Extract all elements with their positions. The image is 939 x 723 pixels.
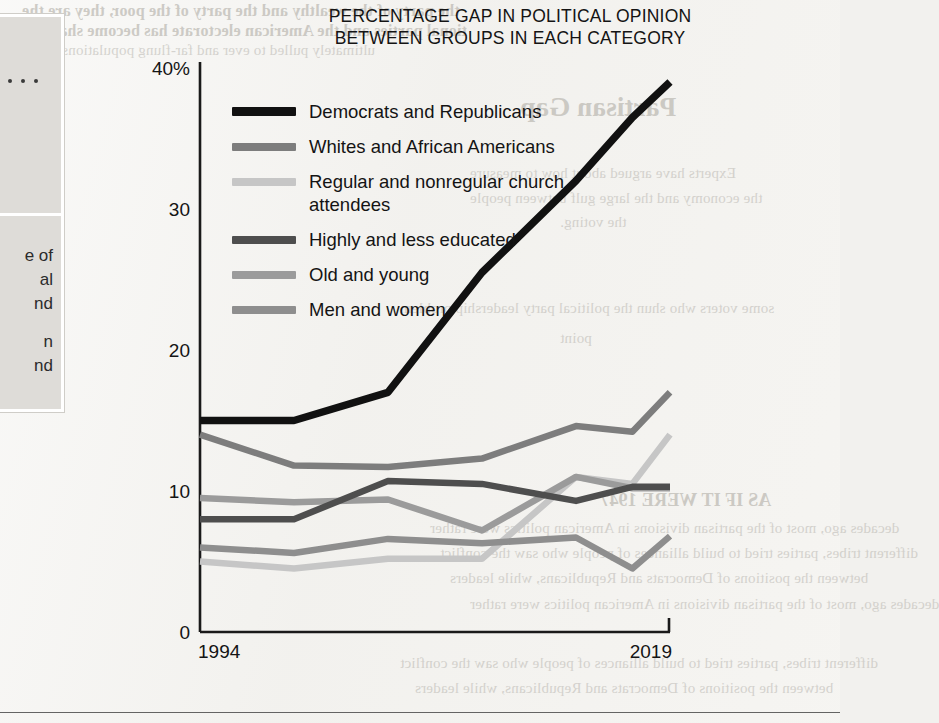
legend-swatch [232, 143, 296, 151]
series-line [200, 392, 670, 467]
y-tick-label: 10 [169, 481, 190, 502]
x-tick-label: 2019 [630, 641, 672, 662]
legend-swatch [232, 236, 296, 244]
legend-label: Old and young [309, 263, 429, 286]
y-tick-label: 40% [152, 58, 190, 79]
y-tick-label: 20 [169, 340, 190, 361]
legend-label: Men and women [309, 298, 446, 321]
y-tick-label: 30 [169, 199, 190, 220]
legend-label: Highly and less educated [309, 228, 516, 251]
legend-item: Old and young [232, 263, 572, 286]
legend-swatch [232, 306, 296, 314]
legend-swatch [232, 107, 296, 116]
y-tick-label: 0 [179, 622, 190, 643]
legend-label: Democrats and Republicans [309, 100, 541, 123]
x-tick-labels: 19942019 [198, 641, 672, 662]
legend-swatch [232, 178, 296, 186]
legend-swatch [232, 271, 296, 279]
legend-item: Highly and less educated [232, 228, 572, 251]
chart-legend: Democrats and RepublicansWhites and Afri… [232, 100, 572, 333]
legend-item: Regular and nonregular church attendees [232, 170, 572, 216]
y-tick-labels: 010203040% [152, 58, 190, 643]
x-tick-label: 1994 [198, 641, 241, 662]
page-bottom-rule [0, 712, 840, 713]
legend-item: Whites and African Americans [232, 135, 572, 158]
legend-item: Democrats and Republicans [232, 100, 572, 123]
legend-label: Regular and nonregular church attendees [309, 170, 571, 216]
legend-label: Whites and African Americans [309, 135, 555, 158]
legend-item: Men and women [232, 298, 572, 321]
